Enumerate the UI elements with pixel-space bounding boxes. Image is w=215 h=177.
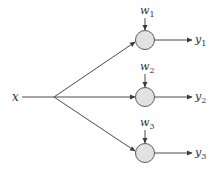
input-label-x: x <box>12 90 19 104</box>
branch-arrow-3 <box>54 97 135 151</box>
node-2: w2 y2 <box>136 60 207 107</box>
node-3: w3 y3 <box>136 116 207 163</box>
node-1: w1 y1 <box>136 4 207 50</box>
branch-arrow-1 <box>54 42 135 97</box>
fanout-diagram: x w1 y1 w2 y2 w3 y3 <box>0 0 215 177</box>
output-label-1: y1 <box>194 33 206 48</box>
node-circle-3 <box>136 144 155 163</box>
node-circle-2 <box>136 88 155 107</box>
node-circle-1 <box>136 31 155 50</box>
weight-label-3: w3 <box>140 116 155 131</box>
output-label-2: y2 <box>194 90 206 105</box>
weight-label-2: w2 <box>140 60 155 75</box>
weight-label-1: w1 <box>140 4 155 19</box>
diagram-canvas: x w1 y1 w2 y2 w3 y3 <box>0 0 215 177</box>
output-label-3: y3 <box>194 146 206 161</box>
